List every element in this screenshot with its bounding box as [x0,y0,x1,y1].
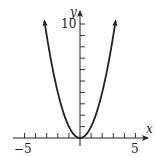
plot-area: x y −5 5 10 [0,0,156,157]
chart: x y −5 5 10 [0,0,156,157]
x-tick-label-max: 5 [131,142,139,156]
y-tick-label-max: 10 [61,17,76,31]
y-axis [80,11,85,146]
x-tick-label-min: −5 [14,142,32,156]
x-axis-label: x [146,122,153,136]
